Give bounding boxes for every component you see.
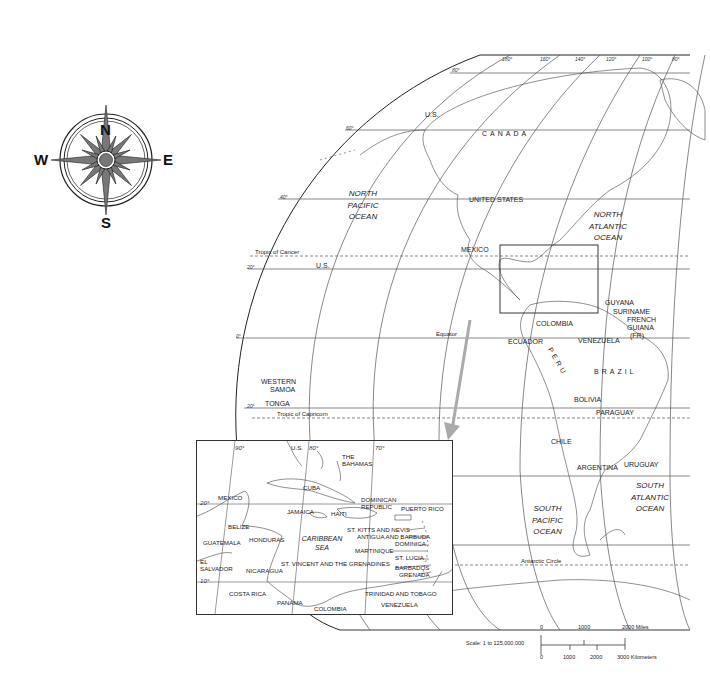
- compass-west: W: [34, 152, 48, 167]
- inset-label-puerto-rico: PUERTO RICO: [401, 506, 444, 512]
- scale-km-1000: 1000: [563, 655, 575, 661]
- inset-label-grenada: GRENADA: [399, 572, 430, 578]
- inset-label-nicaragua: NICARAGUA: [246, 568, 283, 574]
- label-north-pacific: NORTH PACIFIC OCEAN: [333, 188, 393, 223]
- label-united-states: UNITED STATES: [469, 196, 523, 203]
- scale-km-2000: 2000: [590, 655, 602, 661]
- inset-longitude: 70°: [375, 445, 384, 451]
- inset-longitude: 80°: [309, 445, 318, 451]
- inset-label-st-vincent: ST. VINCENT AND THE GRENADINES: [281, 561, 390, 567]
- inset-label-jamaica: JAMAICA: [287, 509, 314, 515]
- label-canada: CANADA: [482, 130, 529, 137]
- label-guyana: GUYANA: [605, 299, 634, 306]
- scale-label: Scale: 1 to 125,000,000: [466, 641, 524, 647]
- label-brazil: BRAZIL: [594, 368, 637, 375]
- label-bolivia: BOLIVIA: [574, 396, 601, 403]
- inset-label-us: U.S.: [291, 445, 303, 451]
- label-us-hawaii: U.S.: [316, 262, 330, 269]
- label-french-guiana: FRENCH: [627, 316, 656, 323]
- inset-label-colombia: COLOMBIA: [314, 606, 347, 612]
- label-french-guiana: (FR): [630, 332, 644, 339]
- label-western-samoa: SAMOA: [270, 386, 295, 393]
- inset-label-st-lucia: ST. LUCIA: [395, 555, 424, 561]
- inset-label-honduras: HONDURAS: [249, 537, 284, 543]
- label-equator: Equator: [436, 331, 457, 337]
- label-colombia: COLOMBIA: [536, 320, 573, 327]
- scale-bar: [541, 635, 625, 655]
- label-tonga: TONGA: [265, 400, 290, 407]
- inset-latitude: 10°: [200, 578, 209, 584]
- inset-latitude: 20°: [200, 500, 209, 506]
- inset-label-panama: PANAMA: [277, 600, 303, 606]
- inset-label-dominican-republic: REPUBLIC: [361, 504, 392, 510]
- caribbean-inset-map: 90° 80° 70° 20° 10° U.S. THE BAHAMAS CUB…: [196, 440, 453, 615]
- label-suriname: SURINAME: [613, 308, 650, 315]
- label-argentina: ARGENTINA: [577, 464, 618, 471]
- inset-label-costa-rica: COSTA RICA: [229, 591, 266, 597]
- longitude-label: 100°: [642, 57, 652, 62]
- label-ecuador: ECUADOR: [508, 338, 543, 345]
- scale-km-0: 0: [540, 655, 543, 661]
- label-us-alaska: U.S.: [425, 111, 439, 118]
- label-chile: CHILE: [551, 438, 572, 445]
- inset-label-dominica: DOMINICA: [395, 541, 426, 547]
- inset-label-guatemala: GUATEMALA: [203, 540, 241, 546]
- latitude-label: 20°: [247, 265, 255, 270]
- inset-label-cuba: CUBA: [303, 485, 320, 491]
- label-french-guiana: GUIANA: [627, 324, 654, 331]
- longitude-label: 140°: [575, 57, 585, 62]
- compass-east: E: [163, 152, 173, 167]
- longitude-label: 80°: [672, 57, 680, 62]
- scale-km-3000: 3000 Kilometers: [617, 655, 657, 661]
- label-mexico: MEXICO: [461, 246, 489, 253]
- label-venezuela: VENEZUELA: [578, 337, 620, 344]
- inset-longitude: 90°: [235, 445, 244, 451]
- label-south-atlantic: SOUTH ATLANTIC OCEAN: [620, 480, 680, 515]
- label-paraguay: PARAGUAY: [596, 409, 634, 416]
- compass-north: N: [100, 122, 111, 137]
- label-tropic-of-capricorn: Tropic of Capricorn: [277, 411, 328, 417]
- label-western-samoa: WESTERN: [261, 378, 296, 385]
- inset-label-belize: BELIZE: [228, 524, 249, 530]
- scale-miles-1000: 1000: [578, 625, 590, 631]
- inset-label-el-salvador: SALVADOR: [200, 566, 233, 572]
- label-uruguay: URUGUAY: [624, 461, 658, 468]
- longitude-label: 120°: [606, 57, 616, 62]
- latitude-label: 40°: [280, 195, 288, 200]
- latitude-label: 0°: [236, 334, 241, 339]
- longitude-label: 180°: [502, 57, 512, 62]
- inset-label-haiti: HAITI: [331, 511, 347, 517]
- inset-label-venezuela: VENEZUELA: [381, 602, 418, 608]
- latitude-label: 60°: [346, 126, 354, 131]
- inset-label-caribbean-sea: CARIBBEAN SEA: [297, 535, 347, 553]
- scale-miles-0: 0: [540, 625, 543, 631]
- label-north-atlantic: NORTH ATLANTIC OCEAN: [578, 209, 638, 244]
- scale-miles-2000: 2000 Miles: [622, 625, 649, 631]
- compass-rose-icon: [36, 90, 176, 230]
- label-antarctic-circle: Antarctic Circle: [521, 558, 561, 564]
- inset-label-trinidad: TRINIDAD AND TOBAGO: [365, 591, 437, 597]
- label-south-pacific: SOUTH PACIFIC OCEAN: [520, 503, 575, 538]
- inset-label-bahamas: BAHAMAS: [342, 461, 372, 467]
- compass-south: S: [101, 215, 111, 230]
- inset-label-mexico: MEXICO: [218, 495, 242, 501]
- label-tropic-of-cancer: Tropic of Cancer: [255, 249, 299, 255]
- latitude-label: 80°: [452, 68, 460, 73]
- inset-label-martinique: MARTINIQUE: [355, 548, 394, 554]
- longitude-label: 160°: [540, 57, 550, 62]
- latitude-label: 20°: [247, 404, 255, 409]
